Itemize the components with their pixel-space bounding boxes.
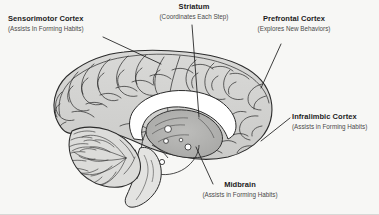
label-striatum-title: Striatum — [140, 2, 248, 12]
label-infralimbic-cortex-title: Infralimbic Cortex — [292, 112, 367, 122]
label-midbrain-title: Midbrain — [185, 180, 295, 190]
label-prefrontal-cortex-subtitle: (Explores New Behaviors) — [248, 24, 340, 33]
label-midbrain: Midbrain (Assists in Forming Habits) — [185, 180, 295, 199]
label-sensorimotor-cortex-title: Sensorimotor Cortex — [8, 14, 84, 24]
label-prefrontal-cortex-title: Prefrontal Cortex — [248, 14, 340, 24]
label-sensorimotor-cortex-subtitle: (Assists In Forming Habits) — [8, 24, 84, 33]
brain-diagram-figure: Sensorimotor Cortex (Assists In Forming … — [0, 0, 379, 215]
leader-line-prefrontal — [261, 44, 281, 88]
label-prefrontal-cortex: Prefrontal Cortex (Explores New Behavior… — [248, 14, 340, 33]
label-sensorimotor-cortex: Sensorimotor Cortex (Assists In Forming … — [8, 14, 84, 33]
label-infralimbic-cortex-subtitle: (Assists in Forming Habits) — [292, 122, 367, 131]
label-infralimbic-cortex: Infralimbic Cortex (Assists in Forming H… — [292, 112, 367, 131]
label-midbrain-subtitle: (Assists in Forming Habits) — [185, 190, 295, 199]
label-striatum-subtitle: (Coordinates Each Step) — [140, 12, 248, 21]
label-striatum: Striatum (Coordinates Each Step) — [140, 2, 248, 21]
